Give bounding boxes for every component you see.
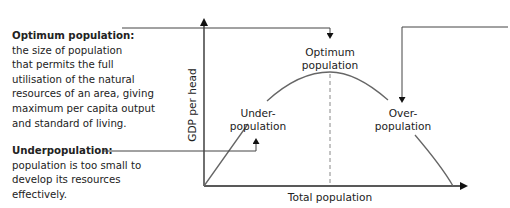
overpopulation-label-2: population xyxy=(375,120,431,132)
x-axis-label: Total population xyxy=(287,191,372,203)
population-chart: Optimum population Under- population Ove… xyxy=(0,0,510,208)
underpopulation-label-1: Under- xyxy=(240,107,275,119)
underpopulation-label-2: population xyxy=(230,120,286,132)
optimum-label-2: population xyxy=(302,59,358,71)
y-axis-label: GDP per head xyxy=(186,68,198,142)
optimum-label-1: Optimum xyxy=(305,46,355,58)
optimum-pointer xyxy=(122,28,330,36)
overpopulation-pointer xyxy=(402,27,508,100)
overpopulation-label-1: Over- xyxy=(389,107,418,119)
